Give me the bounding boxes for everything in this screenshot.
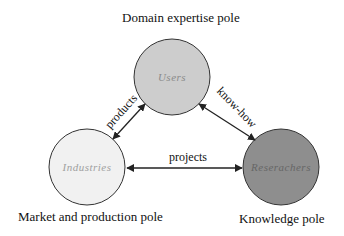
- users-label: Users: [158, 71, 186, 83]
- diagram-canvas: products know-how projects: [0, 0, 344, 236]
- products-label: products: [102, 91, 140, 131]
- projects-label: projects: [169, 150, 207, 164]
- know-how-label: know-how: [214, 84, 260, 131]
- researchers-label: Reserachers: [251, 161, 311, 173]
- knowledge-pole-label: Knowledge pole: [239, 211, 325, 227]
- industries-label: Industries: [63, 161, 112, 173]
- market-production-pole-label: Market and production pole: [18, 209, 163, 225]
- domain-expertise-pole-label: Domain expertise pole: [122, 10, 240, 26]
